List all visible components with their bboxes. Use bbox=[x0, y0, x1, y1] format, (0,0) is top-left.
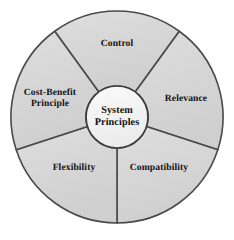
segment-label-relevance: Relevance bbox=[148, 94, 224, 105]
hub-label: System Principles bbox=[86, 105, 148, 129]
segment-label-cost-benefit-principle: Cost-Benefit Principle bbox=[8, 88, 92, 109]
segment-label-control: Control bbox=[75, 39, 159, 50]
system-principles-diagram: Control Relevance Compatibility Flexibil… bbox=[0, 0, 234, 240]
segment-label-compatibility: Compatibility bbox=[116, 163, 202, 174]
segment-label-flexibility: Flexibility bbox=[34, 163, 114, 174]
